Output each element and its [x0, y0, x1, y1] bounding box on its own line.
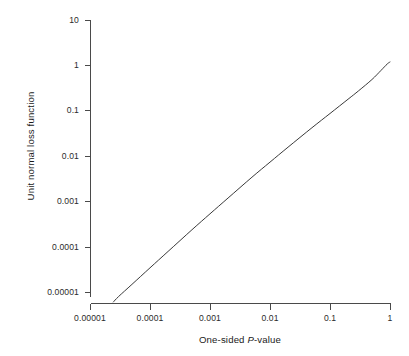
x-axis-title-before: One-sided [199, 334, 247, 345]
x-axis-title: One-sided P-value [90, 334, 390, 345]
y-tick-label-0.01: 0.01 [62, 151, 79, 161]
x-tick-label-0.00001: 0.00001 [74, 313, 106, 323]
data-curve-unit-normal-loss [113, 62, 390, 302]
plot-canvas [0, 0, 409, 356]
y-tick-label-10: 10 [69, 15, 79, 25]
x-tick-label-0.1: 0.1 [324, 313, 336, 323]
y-tick-label-0.00001: 0.00001 [47, 287, 79, 297]
chart-figure: 10 1 0.1 0.01 0.001 0.0001 0.00001 0.000… [0, 0, 409, 356]
y-axis [85, 21, 91, 297]
x-tick-label-1: 1 [388, 313, 393, 323]
x-tick-label-0.01: 0.01 [261, 313, 278, 323]
y-tick-label-0.001: 0.001 [57, 196, 79, 206]
x-tick-label-0.001: 0.001 [199, 313, 221, 323]
x-tick-label-0.0001: 0.0001 [137, 313, 164, 323]
x-axis-title-after: -value [254, 334, 281, 345]
y-tick-label-0.0001: 0.0001 [52, 242, 79, 252]
y-axis-title: Unit normal loss function [24, 0, 38, 292]
y-tick-label-0.1: 0.1 [67, 105, 79, 115]
x-axis [91, 304, 391, 310]
y-tick-label-1: 1 [74, 60, 79, 70]
